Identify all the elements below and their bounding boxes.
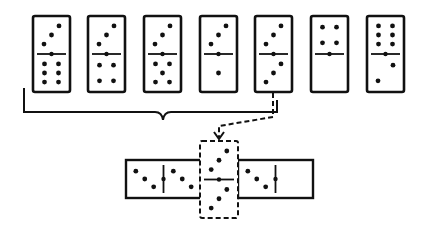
pip (42, 80, 47, 85)
pip (264, 80, 269, 85)
top-row-dominoes (33, 16, 404, 92)
pip (216, 71, 221, 76)
domino-diagram (0, 0, 425, 230)
domino-3-3 (255, 16, 292, 92)
pip (271, 33, 276, 38)
pip (376, 78, 381, 83)
pip (217, 196, 222, 201)
pip (279, 24, 284, 29)
pip (168, 24, 173, 29)
pip (97, 42, 102, 47)
domino-3-1 (200, 16, 237, 92)
pip (97, 78, 102, 83)
pip (97, 63, 102, 68)
dashed-arrow (214, 93, 273, 139)
pip (320, 40, 325, 45)
pip (224, 149, 229, 154)
pip (376, 24, 381, 29)
pip (153, 62, 158, 67)
pip (42, 71, 47, 76)
pip (56, 80, 61, 85)
pip (167, 80, 172, 85)
pip (49, 33, 54, 38)
pip (209, 42, 214, 47)
chain-left-domino (126, 160, 201, 198)
pip (390, 24, 395, 29)
pip (390, 42, 395, 47)
pip (264, 42, 269, 47)
pip (334, 25, 339, 30)
pip (56, 62, 61, 67)
pip (112, 24, 117, 29)
domino-chain (126, 141, 313, 218)
chain-right-domino (238, 160, 313, 198)
pip (111, 78, 116, 83)
pip (224, 24, 229, 29)
pip (390, 33, 395, 38)
pip (104, 33, 109, 38)
pip (391, 63, 396, 68)
pip (160, 33, 165, 38)
pip (153, 42, 158, 47)
pip (57, 24, 62, 29)
pip (160, 71, 165, 76)
domino-3-6 (33, 16, 70, 92)
pip (216, 33, 221, 38)
pip (111, 63, 116, 68)
domino-3-5 (144, 16, 181, 92)
domino-6-2 (367, 16, 404, 92)
domino-4-0 (311, 16, 348, 92)
pip (153, 80, 158, 85)
pip (376, 42, 381, 47)
pip (217, 158, 222, 163)
chain-center-domino (200, 141, 238, 218)
pip (209, 167, 214, 172)
pip (224, 187, 229, 192)
pip (376, 33, 381, 38)
pip (334, 40, 339, 45)
domino-3-4 (88, 16, 125, 92)
pip (209, 206, 214, 211)
pip (42, 62, 47, 67)
pip (56, 71, 61, 76)
pip (167, 62, 172, 67)
pip (271, 71, 276, 76)
pip (279, 62, 284, 67)
pip (320, 25, 325, 30)
pip (42, 42, 47, 47)
